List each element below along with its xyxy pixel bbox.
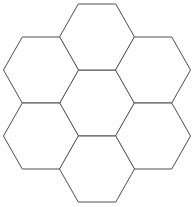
hexagon-cell-group <box>4 4 191 202</box>
hexagon-rosette-svg <box>0 0 196 207</box>
hexagon-diagram-canvas <box>0 0 196 207</box>
